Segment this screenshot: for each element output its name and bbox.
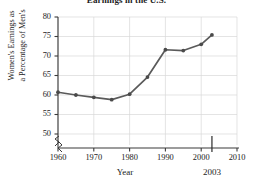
y-tick-label: 70	[31, 51, 51, 60]
data-point	[128, 92, 132, 96]
annotation-2003: 2003	[195, 167, 229, 177]
data-point	[56, 90, 60, 94]
x-tick-label: 1990	[150, 153, 180, 162]
x-tick-label: 1970	[79, 153, 109, 162]
data-point	[164, 48, 168, 52]
x-tick-label: 1980	[115, 153, 145, 162]
data-point	[74, 93, 78, 97]
chart-container: Earnings in the U.S. Women's Earnings as…	[0, 0, 253, 186]
x-axis-label: Year	[80, 167, 170, 177]
x-tick-label: 2000	[186, 153, 216, 162]
y-tick-label: 75	[31, 31, 51, 40]
data-point	[92, 95, 96, 99]
y-tick-label: 50	[31, 129, 51, 138]
x-tick-label: 2010	[222, 153, 252, 162]
x-tick-label: 1960	[43, 153, 73, 162]
y-tick-label: 55	[31, 109, 51, 118]
data-point	[110, 98, 114, 102]
data-point	[146, 75, 150, 79]
y-tick-label: 65	[31, 70, 51, 79]
y-tick-label: 80	[31, 12, 51, 21]
axes	[55, 17, 240, 152]
data-point	[181, 49, 185, 53]
y-tick-label: 60	[31, 90, 51, 99]
data-series-line	[58, 35, 212, 100]
data-point	[210, 33, 214, 37]
data-point	[199, 42, 203, 46]
